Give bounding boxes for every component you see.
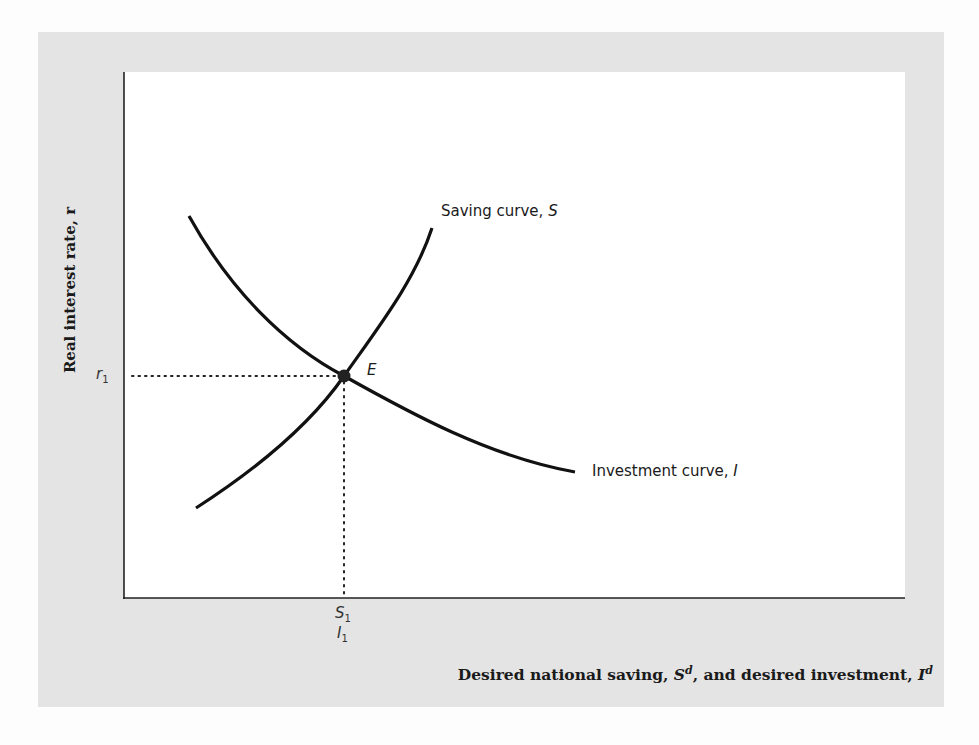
i1-tick-label: I1 [337, 624, 348, 644]
saving-curve-label: Saving curve, S [441, 202, 558, 220]
chart-canvas [0, 0, 979, 745]
x-axis-label: Desired national saving, Sd, and desired… [458, 664, 933, 684]
saving-curve [196, 228, 432, 508]
s1-tick-label: S1 [335, 604, 351, 624]
r1-tick-label: r1 [96, 365, 109, 385]
y-axis-label: Real interest rate, r [61, 207, 79, 373]
equilibrium-label: E [367, 361, 376, 379]
investment-curve [189, 216, 575, 472]
equilibrium-point [338, 370, 351, 383]
investment-curve-label: Investment curve, I [592, 462, 738, 480]
